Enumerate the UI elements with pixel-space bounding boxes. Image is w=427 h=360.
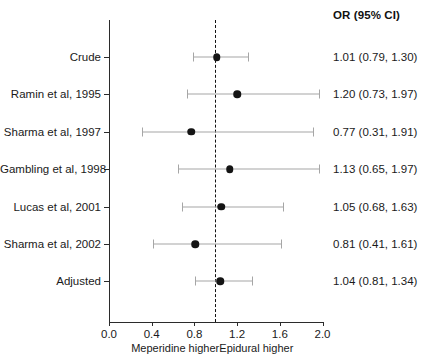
x-axis-tick-label: 0.4 (144, 328, 160, 340)
point-estimate-marker (233, 91, 241, 99)
confidence-interval-line (182, 206, 283, 207)
x-axis-tick-label: 0.0 (101, 328, 117, 340)
point-estimate-marker (226, 165, 234, 173)
row-label: Sharma et al, 1997 (0, 126, 101, 138)
confidence-interval-cap (313, 127, 314, 136)
confidence-interval-cap (195, 277, 196, 286)
confidence-interval-cap (178, 165, 179, 174)
point-estimate-marker (187, 128, 195, 136)
or-value-text: 1.01 (0.79, 1.30) (333, 51, 417, 63)
confidence-interval-cap (142, 127, 143, 136)
confidence-interval-cap (281, 240, 282, 249)
axis-direction-label: Meperidine higher (131, 342, 219, 354)
point-estimate-marker (216, 278, 224, 286)
row-label: Adjusted (0, 275, 101, 287)
or-column-header: OR (95% CI) (333, 9, 400, 21)
or-value-text: 0.77 (0.31, 1.91) (333, 126, 417, 138)
confidence-interval-cap (248, 53, 249, 62)
axis-direction-label: Epidural higher (219, 342, 293, 354)
point-estimate-marker (217, 203, 225, 211)
row-label: Sharma et al, 2002 (0, 238, 101, 250)
or-value-text: 1.04 (0.81, 1.34) (333, 275, 417, 287)
row-axis-tick (104, 207, 109, 208)
x-axis-tick-label: 1.2 (229, 328, 245, 340)
row-axis-tick (104, 244, 109, 245)
confidence-interval-cap (319, 165, 320, 174)
confidence-interval-cap (153, 240, 154, 249)
forest-plot: OR (95% CI) 0.00.40.81.21.62.0 Crude1.01… (0, 0, 427, 360)
confidence-interval-line (153, 244, 281, 245)
x-axis-tick (280, 322, 281, 326)
or-value-text: 1.20 (0.73, 1.97) (333, 88, 417, 100)
x-axis-tick (109, 322, 110, 326)
y-axis-line (109, 20, 110, 322)
point-estimate-marker (213, 53, 221, 61)
confidence-interval-line (187, 94, 319, 95)
or-value-text: 1.13 (0.65, 1.97) (333, 163, 417, 175)
row-label: Lucas et al, 2001 (0, 201, 101, 213)
confidence-interval-cap (187, 90, 188, 99)
row-axis-tick (104, 57, 109, 58)
or-value-text: 0.81 (0.41, 1.61) (333, 238, 417, 250)
row-label: Crude (0, 51, 101, 63)
or-value-text: 1.05 (0.68, 1.63) (333, 201, 417, 213)
x-axis-tick (323, 322, 324, 326)
confidence-interval-line (142, 131, 313, 132)
confidence-interval-cap (252, 277, 253, 286)
confidence-interval-cap (319, 90, 320, 99)
row-axis-tick (104, 132, 109, 133)
row-label: Gambling et al, 1998 (0, 163, 101, 175)
x-axis-tick-label: 2.0 (315, 328, 331, 340)
point-estimate-marker (192, 240, 200, 248)
x-axis-tick (194, 322, 195, 326)
confidence-interval-cap (193, 53, 194, 62)
x-axis-tick (237, 322, 238, 326)
x-axis-tick (152, 322, 153, 326)
confidence-interval-cap (182, 202, 183, 211)
x-axis-tick-label: 1.6 (272, 328, 288, 340)
row-label: Ramin et al, 1995 (0, 88, 101, 100)
null-reference-line (215, 20, 216, 322)
x-axis-tick-label: 0.8 (186, 328, 202, 340)
confidence-interval-line (178, 169, 319, 170)
row-axis-tick (104, 281, 109, 282)
confidence-interval-cap (283, 202, 284, 211)
row-axis-tick (104, 94, 109, 95)
x-axis-line (109, 322, 323, 323)
